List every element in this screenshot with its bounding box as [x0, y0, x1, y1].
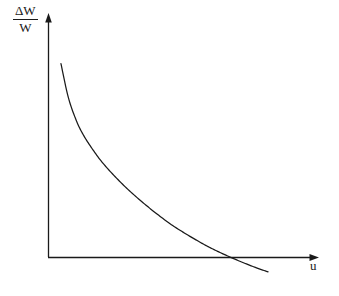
figure-root: ΔW W u	[0, 0, 339, 296]
y-axis-label-denominator: W	[13, 20, 38, 35]
plot-canvas	[0, 0, 339, 296]
x-axis-label: u	[310, 259, 317, 272]
y-axis-label: ΔW W	[13, 4, 38, 34]
data-curve	[61, 64, 268, 272]
arrow-up-icon	[45, 13, 52, 23]
y-axis-label-numerator: ΔW	[13, 4, 38, 20]
